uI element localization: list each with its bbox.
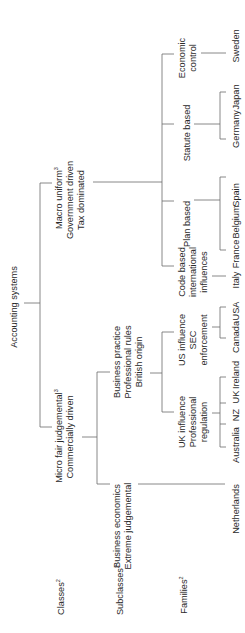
family-code-based: Code based international influences <box>177 247 209 297</box>
family-plan-based: Plan based <box>182 201 192 247</box>
family-code-line-3: influences <box>199 251 209 293</box>
country-usa: USA <box>231 301 241 321</box>
subclass-business-economics: Business economics Extreme judgemental <box>112 483 133 570</box>
family-us-influence: US influence SEC enforcement <box>177 314 209 366</box>
country-spain: Spain <box>231 183 241 207</box>
family-uk-line-3: regulation <box>199 402 209 442</box>
family-econ-line-1: Economic <box>177 37 187 78</box>
class-micro-line-2: Commercially driven <box>65 395 75 478</box>
row-label-subclasses: Subclasses2 <box>114 565 125 615</box>
family-statute-based: Statute based <box>182 105 192 162</box>
countries: USA Canada Ireland UK NZ Australia Nethe… <box>231 29 241 533</box>
country-canada: Canada <box>231 320 241 353</box>
family-us-line-1: US influence <box>177 314 187 366</box>
row-label-classes: Classes2 <box>55 579 66 615</box>
country-germany: Germany <box>231 110 241 148</box>
country-uk: UK <box>231 390 241 404</box>
class-macro-line-3: Tax dominated <box>76 170 86 230</box>
class-macro-line-1: Macro uniform3 <box>53 167 64 229</box>
family-economic-control: Economic control <box>177 37 198 78</box>
country-ireland: Ireland <box>231 361 241 389</box>
subclass-business-practice: Business practice Professional rules Bri… <box>112 325 144 398</box>
country-australia: Australia <box>231 426 241 463</box>
subclass-bp-line-1: Business practice <box>112 326 122 398</box>
class-micro: Micro fair judgemental3 Commercially dri… <box>53 389 75 482</box>
country-france: France <box>231 240 241 269</box>
country-belgium: Belgium <box>231 205 241 239</box>
row-label-families: Families2 <box>178 576 189 613</box>
class-micro-line-1: Micro fair judgemental3 <box>53 389 64 482</box>
family-us-line-3: enforcement <box>199 314 209 366</box>
subclass-bp-line-3: British origin <box>134 337 144 388</box>
family-uk-line-2: Professional <box>188 397 198 448</box>
country-netherlands: Netherlands <box>231 484 241 534</box>
root-node: Accounting systems <box>9 266 19 348</box>
class-macro-line-2: Government driven <box>65 161 75 239</box>
family-uk-influence: UK influence Professional regulation <box>177 396 209 448</box>
family-code-line-2: international <box>188 247 198 297</box>
country-japan: Japan <box>231 84 241 109</box>
country-nz: NZ <box>231 408 241 421</box>
country-sweden: Sweden <box>231 29 241 62</box>
family-uk-line-1: UK influence <box>177 396 187 448</box>
family-code-line-1: Code based <box>177 247 187 297</box>
country-italy: Italy <box>231 271 241 288</box>
family-econ-line-2: control <box>188 44 198 72</box>
accounting-systems-diagram: Accounting systems Classes2 Subclasses2 … <box>0 0 245 633</box>
class-macro: Macro uniform3 Government driven Tax dom… <box>53 161 86 239</box>
family-us-line-2: SEC <box>188 330 198 349</box>
subclass-be-line-1: Business economics <box>112 484 122 568</box>
subclass-be-line-2: Extreme judgemental <box>123 483 133 570</box>
subclass-bp-line-2: Professional rules <box>123 325 133 398</box>
